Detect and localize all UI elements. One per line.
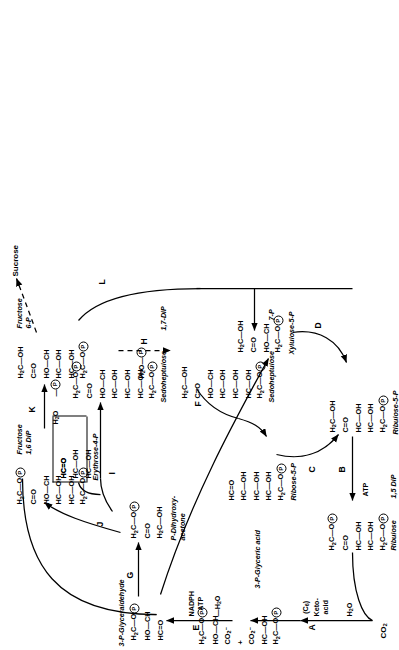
step-label-c: C (306, 466, 316, 472)
cofactor-k-water: H2O (50, 410, 61, 424)
cofactor-e-reductant: NADPHATP (186, 590, 204, 616)
molecule-3-p-glyceraldehyde: H2C—OP HO—CH HC=O (128, 603, 166, 640)
label-ribulose-1-5-dip-line2: 1,5 DiP (388, 474, 397, 498)
molecule-ribulose-1-5-dip: H2C—OP C=O HC—OH HC—OH H2C—OP (326, 513, 389, 550)
label-sucrose: Sucrose (10, 244, 19, 276)
label-3-p-glyceric-acid: 3-P-Glyceric acid (252, 530, 261, 588)
step-label-f: F (192, 401, 202, 406)
label-p-dihydroxyacetone-line1: P-Dihydroxy- (168, 495, 177, 540)
step-label-g: G (124, 571, 134, 578)
cofactor-h-phosphate: —P (136, 347, 146, 364)
cofactor-k-phosphate: —P (50, 379, 60, 396)
cofactor-e-water: —H2O (212, 595, 223, 616)
molecule-xylulose-5-p: H2C—OH C=O HO—CH H2C—OP (234, 315, 284, 352)
label-fructose-1-6-dip-line1: Fructose (14, 424, 23, 454)
pathway-arrows (0, 0, 399, 650)
label-ribulose-1-5-dip-line1: Ribulose (388, 520, 397, 550)
step-label-i: I (106, 472, 116, 474)
cofactor-a-water: H2O (344, 602, 355, 616)
label-p-dihydroxyacetone-line2: acetone (177, 513, 186, 540)
molecule-ribose-5-p: HC=O HC—OH HC—OH HC—OH H2C—OP (224, 463, 287, 500)
label-erythrose-4-p: Erythrose-4-P (90, 433, 99, 480)
molecule-p-dihydroxyacetone: H2C—OP C=O H2C—OH (128, 501, 166, 538)
step-label-j: J (94, 521, 104, 526)
label-ribulose-5-p: Ribulose-5-P (390, 390, 399, 434)
calvin-cycle-figure: CO2 A (C6)Keto-acid H2O H2C—OP HO—CH CO2… (0, 0, 399, 650)
cofactor-a-ketoacid: (C6)Keto-acid (300, 598, 329, 616)
molecule-sedoheptulose-7-p: H2C—OH C=O HO—CH HC—OH HC—OH HC—OH H2C—O… (178, 361, 266, 398)
diagram-canvas: CO2 A (C6)Keto-acid H2O H2C—OP HO—CH CO2… (0, 0, 399, 650)
label-fructose-6-p-line2: 6-P (23, 317, 32, 328)
label-ribose-5-p: Ribose-5-P (288, 462, 297, 500)
step-label-e: E (190, 624, 200, 630)
step-label-h: H (138, 338, 148, 344)
molecule-ribulose-5-p: H2C—OH C=O HC—OH HC—OH H2C—OP (326, 395, 389, 432)
molecule-fructose-1-6-dip: H2C—OP C=O HO—CH HC—OH HC—OH H2C—OP (14, 467, 90, 504)
step-label-d: D (312, 322, 322, 328)
label-fructose-6-p-line1: Fructose (14, 298, 23, 328)
step-label-b: B (336, 466, 346, 472)
step-label-l: L (96, 279, 106, 284)
step-label-a: A (306, 624, 316, 630)
step-label-k: K (26, 406, 36, 412)
label-co2: CO2 (378, 623, 387, 638)
label-fructose-1-6-dip-line2: 1,6 DiP (23, 430, 32, 454)
molecule-3-p-glyceric-acid: H2C—OP HO—CH CO2− + CO2− HC—OH H2C—OP (196, 607, 283, 644)
cofactor-h-water: H2O (136, 364, 147, 378)
label-xylulose-5-p: Xylulose-5-P (286, 311, 295, 354)
label-sedoheptulose-7-p-line1: Sedoheptulose (266, 350, 275, 402)
cofactor-b-atp: ATP (360, 482, 369, 496)
label-3-p-glyceraldehyde: 3-P-Glyceraldehyde (116, 579, 125, 646)
label-sedoheptulose-1-7-dip-line1: Sedoheptulose (158, 350, 167, 402)
label-sedoheptulose-1-7-dip-line2: 1,7-DiP (158, 306, 167, 330)
